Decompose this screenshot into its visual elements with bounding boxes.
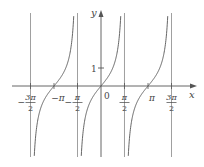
fraction-denominator: 2 [75,104,80,113]
x-tick-labels: −3π2−π−π2π2π3π2 [18,93,178,113]
fraction-numerator: π [74,93,81,102]
minus-sign: − [18,97,26,107]
origin-label: 0 [104,91,110,101]
fraction-denominator: 2 [28,104,33,113]
x-tick-label-neg-3pi-2: −3π2 [18,93,37,113]
fraction-numerator: 3π [166,93,177,102]
fraction-denominator: 2 [122,104,127,113]
minus-sign: − [65,97,73,107]
x-axis-label: x [189,89,195,100]
x-tick-label-neg-pi-2: −π2 [65,93,83,113]
x-axis-arrow-icon [190,84,197,89]
y-tick-label-1: 1 [91,64,97,74]
y-axis-label: y [90,7,97,18]
y-axis-arrow-icon [99,10,104,17]
fraction-denominator: 2 [169,104,174,113]
x-tick-label-pi: π [148,93,156,103]
axes [12,10,197,157]
tangent-graph: y x 0 1 −3π2−π−π2π2π3π2 [0,0,204,167]
fraction-numerator: 3π [25,93,36,102]
fraction-numerator: π [121,93,128,102]
